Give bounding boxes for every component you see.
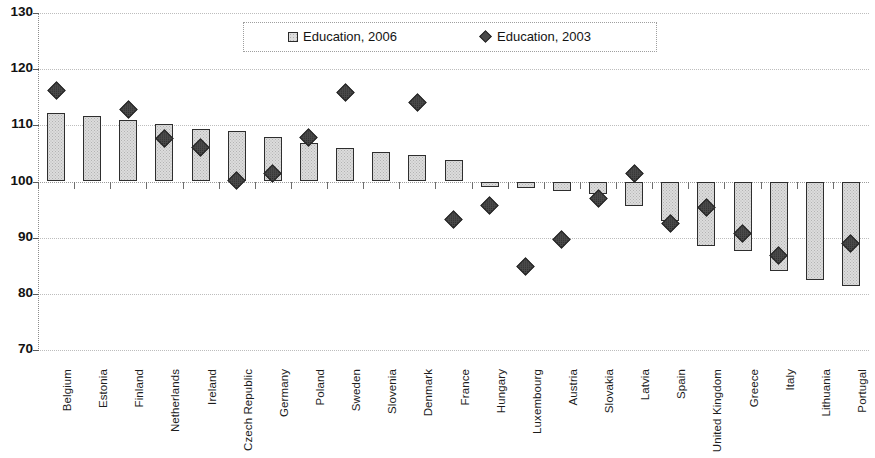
x-axis-label-slovakia: Slovakia	[603, 369, 615, 413]
y-tick-label-110: 110	[0, 116, 33, 131]
gridline-70	[38, 350, 869, 351]
y-tick-130	[33, 13, 39, 14]
x-axis-label-luxembourg: Luxembourg	[531, 369, 543, 434]
y-tick-label-80: 80	[0, 285, 33, 300]
bar-estonia	[83, 116, 101, 182]
legend-entry-education-2003[interactable]: Education, 2003	[479, 29, 591, 44]
category-column	[38, 13, 74, 350]
x-axis-tick	[544, 182, 545, 189]
category-column	[146, 13, 182, 350]
x-axis-tick	[255, 182, 256, 189]
x-axis-tick	[508, 182, 509, 189]
x-axis-label-greece: Greece	[748, 369, 760, 407]
x-axis-label-france: France	[459, 369, 471, 405]
legend-diamond-icon	[479, 30, 492, 43]
y-tick-label-70: 70	[0, 341, 33, 356]
x-axis-label-denmark: Denmark	[422, 369, 434, 416]
bar-hungary	[481, 182, 499, 188]
plot-area: BelgiumEstoniaFinlandNetherlandsIrelandC…	[38, 13, 869, 350]
category-column	[291, 13, 327, 350]
x-axis-tick	[146, 182, 147, 189]
x-axis-tick	[183, 182, 184, 189]
x-axis-label-finland: Finland	[133, 369, 145, 407]
category-column	[110, 13, 146, 350]
x-axis-label-united-kingdom: United Kingdom	[711, 369, 723, 452]
x-axis-label-germany: Germany	[278, 369, 290, 417]
x-axis-tick	[761, 182, 762, 189]
bar-poland	[300, 143, 318, 181]
x-axis-label-ireland: Ireland	[206, 369, 218, 405]
bar-finland	[119, 120, 137, 182]
y-tick-70	[33, 350, 39, 351]
x-axis-tick	[688, 182, 689, 189]
y-tick-label-130: 130	[0, 4, 33, 19]
bar-denmark	[408, 155, 426, 182]
x-axis-tick	[833, 182, 834, 189]
bar-belgium	[47, 113, 65, 182]
x-axis-tick	[219, 182, 220, 189]
x-axis-label-austria: Austria	[567, 369, 579, 406]
category-column	[363, 13, 399, 350]
bar-latvia	[625, 182, 643, 207]
legend-entry-education-2006[interactable]: Education, 2006	[288, 29, 397, 44]
x-axis-label-spain: Spain	[675, 369, 687, 399]
x-axis-label-slovenia: Slovenia	[386, 369, 398, 414]
x-axis-label-lithuania: Lithuania	[820, 369, 832, 417]
y-tick-label-100: 100	[0, 173, 33, 188]
y-tick-label-90: 90	[0, 229, 33, 244]
x-axis-label-estonia: Estonia	[97, 369, 109, 408]
x-axis-tick	[399, 182, 400, 189]
x-axis-label-sweden: Sweden	[350, 369, 362, 411]
y-tick-110	[33, 125, 39, 126]
bar-slovenia	[372, 152, 390, 182]
x-axis-label-netherlands: Netherlands	[169, 369, 181, 432]
y-tick-90	[33, 238, 39, 239]
y-tick-80	[33, 294, 39, 295]
x-axis-label-hungary: Hungary	[495, 369, 507, 413]
y-tick-100	[33, 182, 39, 183]
x-axis-tick	[327, 182, 328, 189]
x-axis-label-portugal: Portugal	[856, 369, 868, 413]
x-axis-tick	[724, 182, 725, 189]
chart-legend: Education, 2006 Education, 2003	[243, 22, 657, 52]
legend-square-icon	[288, 32, 298, 42]
x-axis-tick	[110, 182, 111, 189]
legend-label-education-2006: Education, 2006	[303, 29, 397, 44]
x-axis-label-belgium: Belgium	[61, 369, 73, 411]
x-axis-label-latvia: Latvia	[639, 369, 651, 400]
x-axis-tick	[472, 182, 473, 189]
x-axis-tick	[580, 182, 581, 189]
y-tick-120	[33, 69, 39, 70]
bar-austria	[553, 182, 571, 192]
legend-label-education-2003: Education, 2003	[497, 29, 591, 44]
x-axis-tick	[363, 182, 364, 189]
x-axis-tick	[652, 182, 653, 189]
bar-sweden	[336, 148, 354, 182]
category-column	[399, 13, 435, 350]
bar-luxembourg	[517, 182, 535, 189]
bar-lithuania	[806, 182, 824, 280]
education-index-chart: BelgiumEstoniaFinlandNetherlandsIrelandC…	[0, 0, 875, 458]
x-axis-tick	[435, 182, 436, 189]
x-axis-tick	[616, 182, 617, 189]
category-column	[435, 13, 471, 350]
category-column	[327, 13, 363, 350]
x-axis-tick	[291, 182, 292, 189]
x-axis-tick	[797, 182, 798, 189]
x-axis-label-poland: Poland	[314, 369, 326, 405]
x-axis-label-italy: Italy	[784, 369, 796, 391]
x-axis-tick	[38, 182, 39, 189]
category-column	[183, 13, 219, 350]
category-column	[74, 13, 110, 350]
y-tick-label-120: 120	[0, 60, 33, 75]
x-axis-tick	[74, 182, 75, 189]
bar-france	[445, 160, 463, 182]
x-axis-label-czech-republic: Czech Republic	[242, 369, 254, 451]
